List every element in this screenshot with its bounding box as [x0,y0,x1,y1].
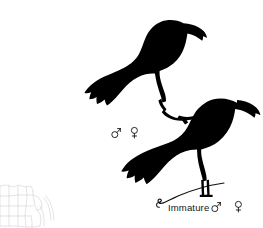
range-map [0,182,58,228]
bird-field-guide-plate: Immature [0,0,263,228]
immature-label: Immature [168,202,209,213]
female-symbol [130,126,139,139]
immature-bird-silhouette [118,92,263,210]
sex-symbols-immature [211,200,243,213]
female-symbol [234,200,243,213]
male-symbol [211,200,221,213]
sex-symbols-adult [111,126,139,139]
male-symbol [111,126,121,139]
